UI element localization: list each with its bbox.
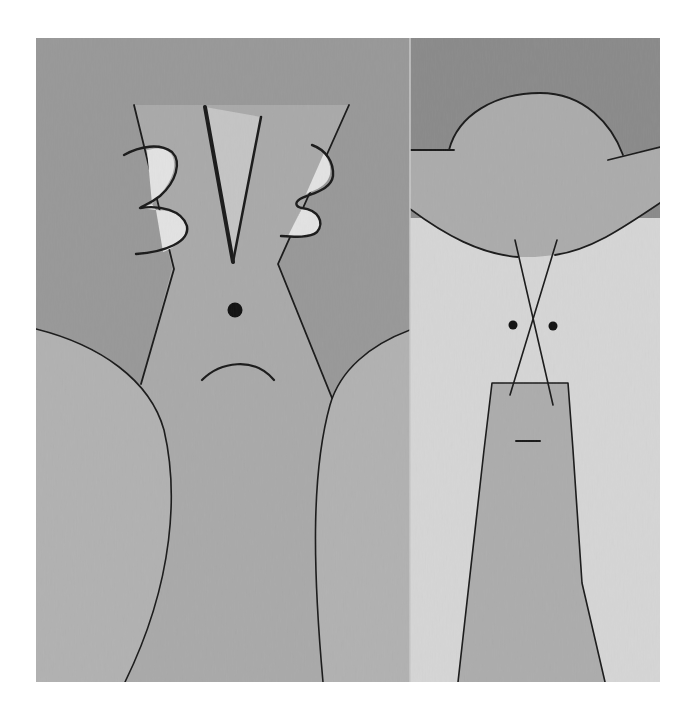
painting [0,0,695,720]
canvas-texture [36,38,660,682]
